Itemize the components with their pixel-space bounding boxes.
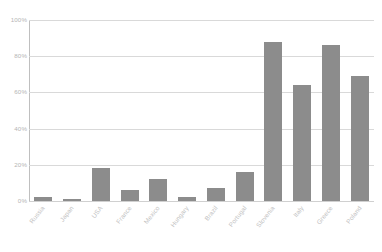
- bar[interactable]: [351, 76, 369, 201]
- y-axis-tick-label: 60%: [1, 89, 27, 95]
- bar-slot: [115, 20, 144, 201]
- bar-slot: [144, 20, 173, 201]
- y-axis-tick-label: 80%: [1, 53, 27, 59]
- bar-slot: [259, 20, 288, 201]
- y-axis-tick-labels: 100%80%60%40%20%0%: [0, 20, 27, 201]
- x-axis-label-slot: France: [115, 203, 144, 252]
- bar-series: [29, 20, 374, 201]
- bar-chart: 100%80%60%40%20%0% RussiaJapanUSAFranceM…: [0, 0, 382, 252]
- x-axis-label-slot: Italy: [288, 203, 317, 252]
- x-axis-label-slot: USA: [87, 203, 116, 252]
- bar-slot: [288, 20, 317, 201]
- x-axis-label-slot: Greece: [317, 203, 346, 252]
- bar-slot: [87, 20, 116, 201]
- x-axis-label-slot: Japan: [58, 203, 87, 252]
- bar-slot: [345, 20, 374, 201]
- bar-slot: [173, 20, 202, 201]
- x-axis-label-slot: Hungary: [173, 203, 202, 252]
- bar[interactable]: [293, 85, 311, 201]
- bar-slot: [317, 20, 346, 201]
- plot-area: [29, 20, 374, 201]
- y-axis-tick-label: 20%: [1, 162, 27, 168]
- x-axis-label-slot: Poland: [345, 203, 374, 252]
- x-axis-label-slot: Mexico: [144, 203, 173, 252]
- x-axis-label-slot: Brazil: [202, 203, 231, 252]
- bar-slot: [29, 20, 58, 201]
- bar-slot: [202, 20, 231, 201]
- x-axis-label-slot: Portugal: [230, 203, 259, 252]
- x-axis-tick-labels: RussiaJapanUSAFranceMexicoHungaryBrazilP…: [29, 203, 374, 252]
- x-axis-label-slot: Slovenia: [259, 203, 288, 252]
- y-axis-tick-label: 100%: [1, 17, 27, 23]
- bar-slot: [58, 20, 87, 201]
- x-axis-label-slot: Russia: [29, 203, 58, 252]
- y-axis-tick-label: 40%: [1, 125, 27, 131]
- y-axis-tick-label: 0%: [1, 198, 27, 204]
- bar-slot: [230, 20, 259, 201]
- bar[interactable]: [264, 42, 282, 201]
- bar[interactable]: [322, 45, 340, 201]
